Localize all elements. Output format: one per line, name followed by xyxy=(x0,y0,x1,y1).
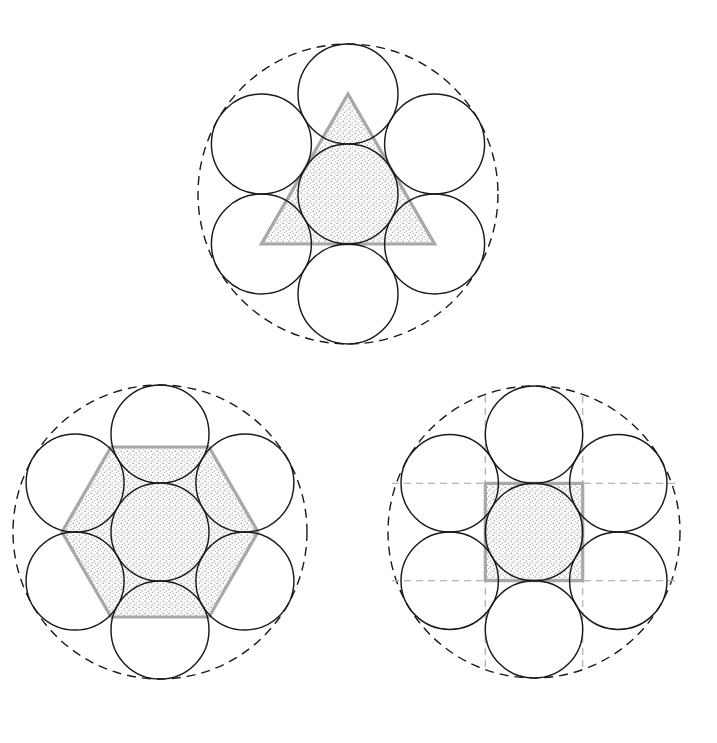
panel-hexagon xyxy=(13,385,307,679)
packing-circle-bottom xyxy=(298,244,398,344)
packing-circle-upper-left xyxy=(211,94,311,194)
geometry-diagram-svg xyxy=(0,0,717,743)
inscribed-hexagon xyxy=(62,447,258,617)
inscribed-triangle xyxy=(261,94,434,244)
figure-board xyxy=(0,0,717,743)
packing-circle-upper-right xyxy=(385,94,485,194)
packing-circle-bottom xyxy=(485,581,582,678)
panel-square xyxy=(388,386,680,678)
packing-circle-top xyxy=(485,386,582,483)
panel-triangle xyxy=(198,44,498,344)
